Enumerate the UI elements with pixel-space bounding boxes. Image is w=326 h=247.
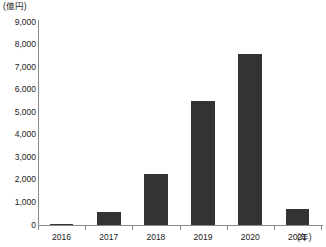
y-axis-tick-label: 4,000 <box>2 130 36 139</box>
x-axis-tick-mark <box>132 226 133 230</box>
y-axis-tick-labels: 01,0002,0003,0004,0005,0006,0007,0008,00… <box>0 0 36 247</box>
x-axis-unit-label: (年) <box>297 232 312 242</box>
x-axis-category-label: 2018 <box>132 232 179 242</box>
bar <box>97 212 121 225</box>
x-axis-category-label: 2019 <box>180 232 227 242</box>
x-axis-tick-mark <box>180 226 181 230</box>
x-axis-category-label: 2017 <box>85 232 132 242</box>
bar <box>238 54 262 225</box>
bar <box>144 174 168 225</box>
y-axis-tick-label: 2,000 <box>2 175 36 184</box>
x-axis-tick-mark <box>227 226 228 230</box>
plot-area <box>38 22 321 225</box>
bar-chart: (億円) 01,0002,0003,0004,0005,0006,0007,00… <box>0 0 326 247</box>
y-axis-tick-label: 7,000 <box>2 63 36 72</box>
y-axis-tick-label: 3,000 <box>2 153 36 162</box>
x-axis-tick-mark <box>38 226 39 230</box>
y-axis-tick-label: 6,000 <box>2 85 36 94</box>
bar <box>50 224 74 226</box>
x-axis-category-label: 2016 <box>38 232 85 242</box>
bar <box>191 101 215 225</box>
bar <box>286 209 310 225</box>
x-axis-category-label: 2020 <box>227 232 274 242</box>
x-axis-line <box>38 225 323 226</box>
y-axis-tick-label: 9,000 <box>2 18 36 27</box>
x-axis-tick-mark <box>274 226 275 230</box>
x-axis-tick-mark <box>85 226 86 230</box>
y-axis-tick-label: 8,000 <box>2 40 36 49</box>
x-axis-tick-mark <box>321 226 322 230</box>
y-axis-tick-label: 1,000 <box>2 198 36 207</box>
y-axis-tick-label: 5,000 <box>2 108 36 117</box>
y-axis-tick-label: 0 <box>2 221 36 230</box>
